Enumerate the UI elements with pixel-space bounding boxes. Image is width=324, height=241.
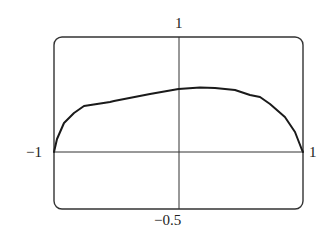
chart-plot-area bbox=[0, 0, 324, 241]
y-min-label: −0.5 bbox=[154, 213, 181, 228]
x-min-label: −1 bbox=[26, 145, 42, 160]
x-max-label: 1 bbox=[309, 145, 317, 160]
y-max-label: 1 bbox=[175, 16, 183, 31]
